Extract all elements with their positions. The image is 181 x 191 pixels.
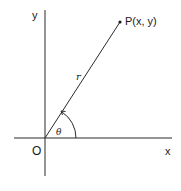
radius-line <box>45 22 120 138</box>
angle-arc <box>62 112 76 138</box>
point-label: P(x, y) <box>125 15 157 27</box>
point-p <box>118 20 121 23</box>
origin-label: O <box>32 144 41 158</box>
polar-coordinate-diagram: y P(x, y) r θ O x <box>0 0 181 191</box>
x-axis-label: x <box>165 145 171 157</box>
y-axis-label: y <box>32 9 38 21</box>
angle-label: θ <box>56 127 62 137</box>
radius-label: r <box>76 71 82 82</box>
